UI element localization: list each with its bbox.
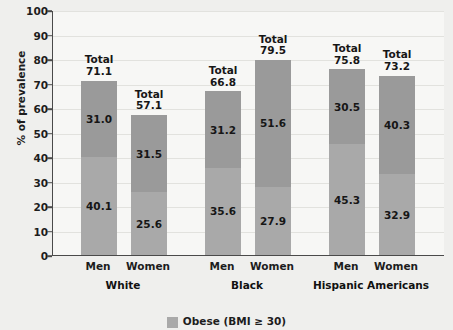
bar-total-label: Total66.8 <box>193 65 253 89</box>
bar-total-value: 57.1 <box>136 99 162 111</box>
x-group-label-white: White <box>53 279 193 291</box>
x-group-label-black: Black <box>177 279 317 291</box>
bar-segment-overweight: 30.5 <box>329 69 365 144</box>
legend-item: Obese (BMI ≥ 30) <box>167 316 286 328</box>
legend-swatch-obese-icon <box>167 317 178 328</box>
y-tick-label-0: 0 <box>0 251 48 262</box>
bar-total-prefix: Total <box>85 53 114 65</box>
x-group-label-hispanic-americans: Hispanic Americans <box>301 279 441 291</box>
x-tick-label-women-3: Women <box>242 260 302 272</box>
bar-black-women[interactable]: 27.951.6Total79.5 <box>255 60 291 255</box>
y-tick-label-90: 90 <box>0 30 48 41</box>
plot-area: 40.131.0Total71.125.631.5Total57.135.631… <box>52 11 444 256</box>
y-tick-label-50: 50 <box>0 128 48 139</box>
bar-segment-overweight: 31.2 <box>205 91 241 167</box>
legend-label: Obese (BMI ≥ 30) <box>183 316 286 328</box>
bar-total-prefix: Total <box>209 64 238 76</box>
bar-total-prefix: Total <box>333 42 362 54</box>
x-tick-label-women-1: Women <box>118 260 178 272</box>
y-tick-label-40: 40 <box>0 153 48 164</box>
chart-legend: Obese (BMI ≥ 30) <box>0 316 453 328</box>
bar-segment-overweight: 31.0 <box>81 81 117 157</box>
bar-segment-obese: 35.6 <box>205 168 241 255</box>
y-tick-label-10: 10 <box>0 226 48 237</box>
x-tick-label-women-5: Women <box>366 260 426 272</box>
bar-segment-obese: 40.1 <box>81 157 117 255</box>
stacked-bar-chart: % of prevalence 0102030405060708090100 4… <box>0 0 453 330</box>
bar-total-label: Total79.5 <box>243 34 303 58</box>
bar-total-label: Total71.1 <box>69 54 129 78</box>
bar-total-label: Total73.2 <box>367 49 427 73</box>
bar-total-value: 73.2 <box>384 60 410 72</box>
y-axis-label: % of prevalence <box>15 33 27 163</box>
bar-total-prefix: Total <box>135 88 164 100</box>
bar-white-men[interactable]: 40.131.0Total71.1 <box>81 81 117 255</box>
bar-total-value: 71.1 <box>86 65 112 77</box>
bar-segment-obese: 45.3 <box>329 144 365 255</box>
bar-segment-obese: 25.6 <box>131 192 167 255</box>
bar-white-women[interactable]: 25.631.5Total57.1 <box>131 115 167 255</box>
gridline-100 <box>53 11 444 12</box>
bar-hispanic-americans-men[interactable]: 45.330.5Total75.8 <box>329 69 365 255</box>
y-tick-label-80: 80 <box>0 55 48 66</box>
y-tick-label-100: 100 <box>0 6 48 17</box>
bar-total-value: 66.8 <box>210 76 236 88</box>
bar-segment-obese: 32.9 <box>379 174 415 255</box>
y-tick-label-30: 30 <box>0 177 48 188</box>
bar-total-label: Total57.1 <box>119 89 179 113</box>
y-tick-label-70: 70 <box>0 79 48 90</box>
y-tick-label-20: 20 <box>0 202 48 213</box>
bar-segment-overweight: 40.3 <box>379 76 415 175</box>
bar-total-value: 79.5 <box>260 44 286 56</box>
bar-segment-overweight: 31.5 <box>131 115 167 192</box>
bar-total-value: 75.8 <box>334 54 360 66</box>
bar-hispanic-americans-women[interactable]: 32.940.3Total73.2 <box>379 76 415 255</box>
bar-segment-overweight: 51.6 <box>255 60 291 186</box>
bar-total-prefix: Total <box>383 48 412 60</box>
y-tick-label-60: 60 <box>0 104 48 115</box>
bar-total-prefix: Total <box>259 33 288 45</box>
bar-black-men[interactable]: 35.631.2Total66.8 <box>205 91 241 255</box>
bar-segment-obese: 27.9 <box>255 187 291 255</box>
